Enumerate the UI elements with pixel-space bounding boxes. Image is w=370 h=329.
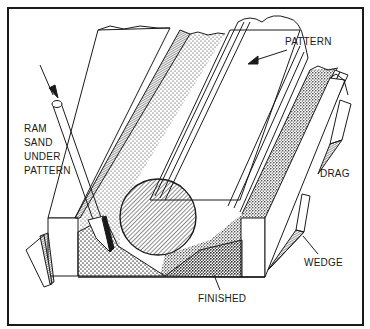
label-pattern: PATTERN: [285, 35, 332, 49]
label-drag: DRAG: [320, 167, 350, 181]
label-ram-sand-under-pattern: RAM SAND UNDER PATTERN: [24, 122, 71, 178]
ram-arrow: [40, 65, 58, 98]
label-ram-line2: SAND: [24, 136, 71, 150]
label-wedge: WEDGE: [304, 256, 343, 270]
label-ram-line1: RAM: [24, 122, 71, 136]
wedge-leader: [303, 236, 318, 254]
label-ram-line3: UNDER: [24, 150, 71, 164]
pattern-cross-section: [120, 179, 196, 255]
label-finished: FINISHED: [198, 292, 246, 306]
label-ram-line4: PATTERN: [24, 164, 71, 178]
